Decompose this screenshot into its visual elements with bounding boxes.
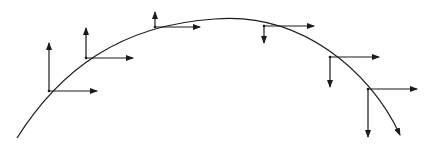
frame-origin-point [367, 88, 370, 91]
frame-origin-point [263, 25, 266, 28]
coordinate-frame-4 [263, 25, 314, 43]
trajectory-diagram [0, 0, 441, 148]
diagram-canvas [0, 0, 441, 148]
frame-origin-point [329, 56, 332, 59]
coordinate-frame-3 [154, 12, 200, 28]
coordinate-frame-1 [48, 43, 97, 92]
coordinate-frames [48, 12, 417, 137]
trajectory-curve [17, 18, 400, 138]
frame-origin-point [85, 57, 88, 60]
frame-origin-point [154, 26, 157, 29]
coordinate-frame-2 [85, 28, 133, 59]
frame-origin-point [48, 90, 51, 93]
coordinate-frame-6 [367, 88, 417, 137]
